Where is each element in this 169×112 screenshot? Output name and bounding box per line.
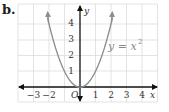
- y-tick-3: 3: [68, 34, 74, 44]
- chart: 4 3 2 1 −3 −2 1 2 3 4 O x y y = x 2: [0, 0, 169, 112]
- y-tick-1: 1: [68, 66, 74, 76]
- origin-label: O: [71, 90, 79, 100]
- x-tick-3: 3: [124, 90, 130, 100]
- equation-label: y = x: [107, 40, 137, 53]
- curve-arrow-left: [48, 12, 49, 22]
- x-axis-label: x: [150, 90, 155, 100]
- x-tick-neg3: −3: [27, 90, 41, 100]
- equation-exponent: 2: [138, 38, 142, 46]
- curve-arrow-right: [112, 12, 113, 22]
- y-axis-label: y: [83, 6, 90, 16]
- x-tick-neg2: −2: [42, 90, 55, 100]
- x-tick-1: 1: [93, 90, 99, 100]
- x-tick-4: 4: [139, 90, 145, 100]
- y-tick-2: 2: [68, 50, 74, 60]
- figure: b.: [0, 0, 169, 112]
- y-tick-4: 4: [68, 18, 74, 28]
- x-tick-2: 2: [108, 90, 114, 100]
